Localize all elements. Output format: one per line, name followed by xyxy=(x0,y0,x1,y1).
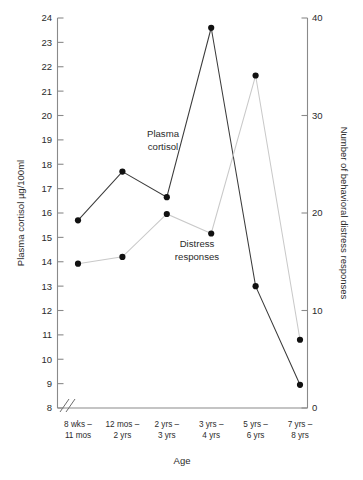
plasma-cortisol-label-line1: Plasma xyxy=(147,128,180,139)
dual-axis-line-chart: 89101112131415161718192021222324 0102030… xyxy=(0,0,363,480)
data-point xyxy=(208,230,214,236)
series-annotation-distress-responses: Distress responses xyxy=(175,238,219,262)
category-label-line2: 2 yrs xyxy=(114,431,132,440)
category-label-line1: 2 yrs – xyxy=(155,420,180,429)
series-plasma-cortisol xyxy=(75,25,303,388)
data-point xyxy=(208,25,214,31)
right-axis-ticks: 010203040 xyxy=(302,12,323,413)
data-point xyxy=(297,337,303,343)
y-axis-title: Plasma cortisol µg/100ml xyxy=(15,160,26,266)
y2-axis-title: Number of behavioral distress responses xyxy=(339,127,350,300)
data-point xyxy=(164,194,170,200)
left-axis-ticks: 89101112131415161718192021222324 xyxy=(41,12,63,413)
y-tick-label: 24 xyxy=(41,12,52,23)
plasma-cortisol-label-line2: cortisol xyxy=(148,141,178,152)
data-point xyxy=(75,261,81,267)
category-label: 2 yrs –3 yrs xyxy=(155,420,180,440)
y-tick-label: 14 xyxy=(41,256,52,267)
y-tick-label: 15 xyxy=(41,232,52,243)
data-point xyxy=(297,382,303,388)
axis-break-icon xyxy=(60,399,75,412)
distress-responses-label-line2: responses xyxy=(175,251,219,262)
y-tick-label: 10 xyxy=(41,354,52,365)
series-line xyxy=(78,76,300,340)
data-point xyxy=(75,217,81,223)
category-label-line1: 5 yrs – xyxy=(243,420,268,429)
y2-tick-label: 40 xyxy=(312,12,323,23)
data-point xyxy=(253,72,259,78)
category-axis-labels: 8 wks –11 mos12 mos –2 yrs2 yrs –3 yrs3 … xyxy=(64,420,313,440)
data-point xyxy=(119,254,125,260)
y-tick-label: 17 xyxy=(41,183,52,194)
y-tick-label: 21 xyxy=(41,86,52,97)
series-annotation-plasma-cortisol: Plasma cortisol xyxy=(147,128,180,152)
category-label-line2: 8 yrs xyxy=(291,431,309,440)
y-tick-label: 18 xyxy=(41,159,52,170)
series-line xyxy=(78,28,300,385)
x-axis-title: Age xyxy=(174,455,191,466)
series-layer xyxy=(75,25,303,388)
category-label: 12 mos –2 yrs xyxy=(106,420,140,440)
data-point xyxy=(253,283,259,289)
category-label: 3 yrs –4 yrs xyxy=(199,420,224,440)
distress-responses-label-line1: Distress xyxy=(180,238,215,249)
category-label-line1: 8 wks – xyxy=(64,420,92,429)
category-label: 8 wks –11 mos xyxy=(64,420,92,440)
data-point xyxy=(119,168,125,174)
y-tick-label: 22 xyxy=(41,61,52,72)
y2-tick-label: 30 xyxy=(312,110,323,121)
y-tick-label: 23 xyxy=(41,37,52,48)
category-label-line2: 4 yrs xyxy=(202,431,220,440)
y2-tick-label: 0 xyxy=(312,402,317,413)
category-label-line2: 11 mos xyxy=(65,431,91,440)
y-tick-label: 12 xyxy=(41,305,52,316)
category-label-line1: 3 yrs – xyxy=(199,420,224,429)
y-tick-label: 16 xyxy=(41,207,52,218)
data-point xyxy=(164,211,170,217)
category-label: 7 yrs –8 yrs xyxy=(288,420,313,440)
category-label-line2: 6 yrs xyxy=(247,431,265,440)
chart-canvas: 89101112131415161718192021222324 0102030… xyxy=(0,0,363,480)
y2-tick-label: 10 xyxy=(312,305,323,316)
category-label-line1: 12 mos – xyxy=(106,420,140,429)
y-tick-label: 9 xyxy=(47,378,52,389)
y-tick-label: 11 xyxy=(42,329,52,340)
y-tick-label: 13 xyxy=(41,281,52,292)
category-label: 5 yrs –6 yrs xyxy=(243,420,268,440)
y-tick-label: 19 xyxy=(41,134,52,145)
category-label-line1: 7 yrs – xyxy=(288,420,313,429)
y-tick-label: 20 xyxy=(41,110,52,121)
category-label-line2: 3 yrs xyxy=(158,431,176,440)
y-tick-label: 8 xyxy=(47,402,52,413)
y2-tick-label: 20 xyxy=(312,207,323,218)
axes-group xyxy=(58,18,308,412)
